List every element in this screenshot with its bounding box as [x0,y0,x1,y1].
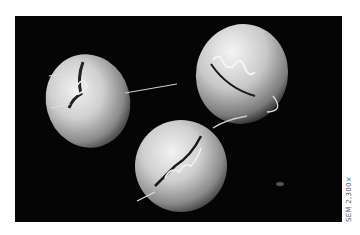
cell-bottom [135,116,247,212]
debris [276,182,284,186]
cell-top-right [188,17,296,131]
magnification-caption: SEM 2,300× [345,176,353,222]
sem-micrograph [15,16,342,222]
